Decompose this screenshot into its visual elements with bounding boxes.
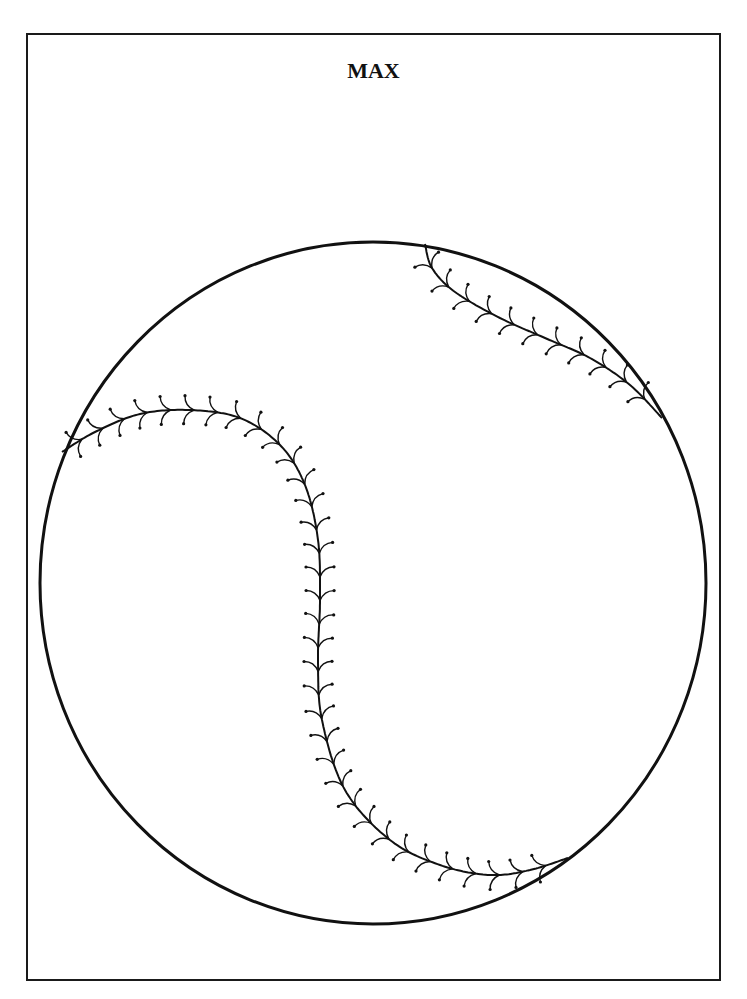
stitch	[624, 365, 627, 382]
stitch-dot	[303, 684, 306, 687]
stitch-dot	[508, 858, 511, 861]
stitch	[319, 684, 332, 695]
stitch-dot	[332, 704, 335, 707]
stitch	[439, 869, 452, 880]
stitch	[490, 875, 499, 890]
stitch-dot	[588, 372, 591, 375]
stitch-dot	[413, 266, 416, 269]
stitch	[532, 855, 546, 865]
stitch-dot	[337, 805, 340, 808]
stitch-dot	[371, 842, 374, 845]
stitch-dot	[304, 612, 307, 615]
stitch-dot	[603, 349, 606, 352]
stitch-dot	[332, 613, 335, 616]
stitch-dot	[626, 400, 629, 403]
stitch	[301, 522, 316, 530]
stitch-dot	[405, 833, 408, 836]
stitch-dot	[567, 361, 570, 364]
stitch-dot	[294, 499, 297, 502]
stitch-dot	[235, 400, 238, 403]
stitch-dot	[303, 543, 306, 546]
stitch	[500, 325, 515, 334]
stitch	[432, 252, 439, 268]
stitch-dot	[331, 541, 334, 544]
stitch-dot	[182, 422, 185, 425]
stitch-dot	[445, 851, 448, 854]
stitch	[510, 860, 523, 872]
stitch	[432, 286, 449, 291]
stitch-dot	[392, 858, 395, 861]
stitch	[516, 872, 523, 888]
stitch	[304, 661, 318, 671]
stitch-dot	[281, 426, 284, 429]
stitch-dot	[331, 637, 334, 640]
stitch-dot	[414, 870, 417, 873]
stitch-dot	[299, 446, 302, 449]
stitch	[306, 613, 320, 624]
stitch	[489, 862, 500, 876]
stitch-dot	[79, 455, 82, 458]
stitch-dot	[466, 857, 469, 860]
stitch-dot	[372, 805, 375, 808]
stitch-dot	[487, 860, 490, 863]
stitch	[88, 420, 103, 428]
stitch	[245, 429, 261, 436]
stitch-dot	[514, 886, 517, 889]
stitch-dot	[160, 423, 163, 426]
stitch	[226, 418, 241, 427]
stitch-dot	[327, 516, 330, 519]
stitch	[468, 858, 476, 873]
stitch-dot	[452, 307, 455, 310]
stitch-dot	[286, 479, 289, 482]
stitch	[322, 706, 334, 719]
stitch-dot	[626, 363, 629, 366]
stitch-dot	[86, 418, 89, 421]
stitch-dot	[259, 411, 262, 414]
stitch	[304, 637, 318, 647]
stitch-dot	[463, 885, 466, 888]
stitch-dot	[324, 782, 327, 785]
stitch-dot	[509, 306, 512, 309]
stitch	[476, 314, 491, 322]
stitch-dot	[498, 332, 501, 335]
stitch-dot	[244, 434, 247, 437]
stitch-dot	[437, 251, 440, 254]
stitch	[334, 750, 344, 764]
stitch	[319, 615, 334, 624]
stitch	[306, 711, 322, 718]
stitch-dot	[333, 589, 336, 592]
stitch	[523, 335, 538, 344]
stitch	[355, 789, 361, 806]
stitch-dot	[275, 461, 278, 464]
stitch-dot	[608, 385, 611, 388]
stitch-dot	[488, 295, 491, 298]
stitch	[206, 412, 218, 424]
stitch	[343, 771, 351, 786]
stitch-dot	[302, 660, 305, 663]
stitch-dot	[539, 880, 542, 883]
stitch	[590, 367, 606, 374]
stitch	[327, 728, 338, 741]
stitch	[393, 852, 408, 860]
stitch-dot	[430, 290, 433, 293]
stitch-dot	[300, 521, 303, 524]
stitch-dot	[555, 326, 558, 329]
stitch	[210, 397, 218, 412]
stitch	[386, 822, 389, 839]
stitch-dot	[489, 888, 492, 891]
stitch	[110, 409, 124, 419]
stitch-dot	[580, 336, 583, 339]
stitch-dot	[466, 283, 469, 286]
stitch-dot	[312, 468, 315, 471]
stitch-dot	[336, 727, 339, 730]
stitch	[294, 447, 301, 463]
stitch-dot	[159, 395, 162, 398]
stitch	[569, 355, 584, 363]
stitch-dot	[303, 636, 306, 639]
stitch-dot	[305, 589, 308, 592]
stitch	[317, 518, 329, 530]
stitch-dot	[545, 352, 548, 355]
stitch	[184, 410, 195, 424]
stitch	[610, 381, 627, 386]
stitch-dot	[309, 734, 312, 737]
